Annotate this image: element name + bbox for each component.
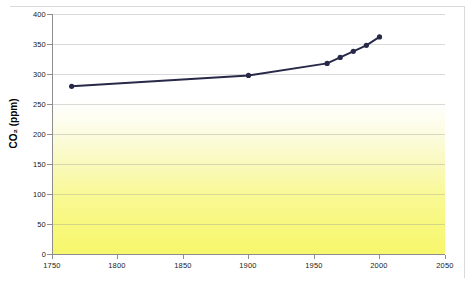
y-tickmark (47, 74, 52, 75)
plot-area (52, 14, 445, 255)
x-tickmark (379, 255, 380, 259)
y-axis-tick-label: 250 (18, 100, 46, 109)
y-axis-tick-label: 350 (18, 40, 46, 49)
gridline (53, 164, 445, 165)
x-axis-tick-label: 1900 (228, 261, 268, 270)
x-axis-tick-label: 1850 (163, 261, 203, 270)
gridline (53, 104, 445, 105)
y-tickmark (47, 224, 52, 225)
x-tickmark (117, 255, 118, 259)
x-axis-tick-label: 1800 (97, 261, 137, 270)
y-tickmark (47, 44, 52, 45)
y-axis-tick-label: 150 (18, 160, 46, 169)
gridline (53, 194, 445, 195)
x-tickmark (445, 255, 446, 259)
x-axis-tick-label: 2050 (425, 261, 465, 270)
y-axis-tick-label: 300 (18, 70, 46, 79)
gridline (53, 14, 445, 15)
x-tickmark (314, 255, 315, 259)
y-axis-tick-label: 0 (18, 250, 46, 259)
y-tickmark (47, 104, 52, 105)
x-axis-tick-label: 2000 (359, 261, 399, 270)
y-tickmark (47, 194, 52, 195)
y-axis-title: CO₂ (ppm) (8, 64, 19, 184)
x-tickmark (248, 255, 249, 259)
gridline (53, 224, 445, 225)
x-tickmark (183, 255, 184, 259)
gridline (53, 74, 445, 75)
y-tickmark (47, 134, 52, 135)
x-axis-tick-label: 1750 (32, 261, 72, 270)
y-axis-tick-label: 100 (18, 190, 46, 199)
y-axis-tick-label: 50 (18, 220, 46, 229)
gridline (53, 134, 445, 135)
y-tickmark (47, 14, 52, 15)
y-axis-tick-label: 400 (18, 10, 46, 19)
y-axis-tick-label: 200 (18, 130, 46, 139)
gridline (53, 44, 445, 45)
x-tickmark (52, 255, 53, 259)
x-axis-tick-label: 1950 (294, 261, 334, 270)
co2-line-chart: 400 350 300 250 200 150 100 50 0 1750 18… (0, 0, 474, 287)
y-tickmark (47, 164, 52, 165)
